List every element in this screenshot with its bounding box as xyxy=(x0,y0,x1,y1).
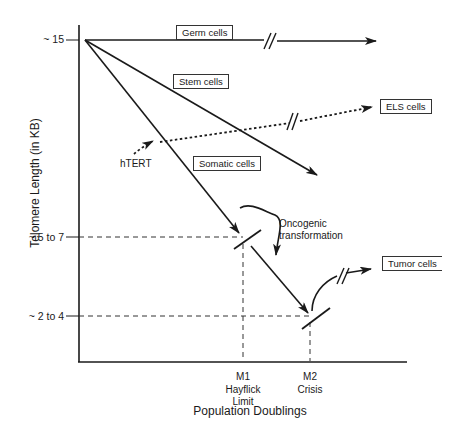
y-axis-label: Telomere Length (in KB) xyxy=(28,118,42,248)
label-germ-cells: Germ cells xyxy=(176,25,233,40)
m1-m2-line xyxy=(251,246,308,313)
diagram-canvas xyxy=(0,0,455,432)
els-line-cont xyxy=(300,107,372,121)
x-tick-m1: M1 Hayflick Limit xyxy=(218,371,268,409)
x-tick-m2-line2: Crisis xyxy=(285,384,335,397)
y-tick-label-15: ~ 15 xyxy=(20,34,64,45)
label-transformation: transformation xyxy=(279,231,343,241)
x-tick-m2: M2 Crisis xyxy=(285,371,335,396)
y-tick-label-2to4: ~ 2 to 4 xyxy=(10,311,64,322)
stem-line xyxy=(85,40,317,175)
somatic-line xyxy=(85,40,239,233)
x-tick-m1-line1: M1 xyxy=(218,371,268,384)
label-els-cells: ELS cells xyxy=(380,99,432,114)
x-tick-m2-line1: M2 xyxy=(285,371,335,384)
y-tick-label-5to7: ~ 5 to 7 xyxy=(10,232,64,243)
tumor-arrow xyxy=(346,269,371,273)
htert-arrow xyxy=(134,141,153,154)
tumor-arrow-curve xyxy=(312,276,337,311)
x-tick-m1-line2: Hayflick xyxy=(218,384,268,397)
label-htert: hTERT xyxy=(120,159,152,169)
label-oncogenic: Oncogenic xyxy=(279,219,327,229)
els-break-icon xyxy=(287,113,293,130)
label-stem-cells: Stem cells xyxy=(173,74,229,89)
els-line xyxy=(160,123,290,142)
label-tumor-cells: Tumor cells xyxy=(382,256,442,271)
x-axis-label: Population Doublings xyxy=(150,404,350,418)
label-somatic-cells: Somatic cells xyxy=(193,156,261,171)
els-break-icon-2 xyxy=(292,113,298,130)
